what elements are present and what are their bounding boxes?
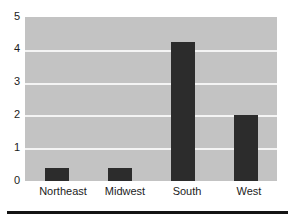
bar-northeast[interactable]	[45, 168, 69, 181]
bar-chart-figure: 5 4 3 2 1 0 Northeast Midwest South West	[0, 0, 295, 224]
y-tick-label-4: 4	[4, 43, 20, 54]
x-tick-label-midwest: Midwest	[105, 184, 145, 198]
y-tick-label-0: 0	[4, 175, 20, 186]
bar-west[interactable]	[234, 115, 258, 181]
x-tick-label-northeast: Northeast	[39, 184, 87, 198]
x-tick-label-south: South	[173, 184, 202, 198]
plot-area	[25, 17, 277, 181]
bar-south[interactable]	[171, 42, 195, 181]
y-tick-label-5: 5	[4, 11, 20, 22]
y-tick-label-3: 3	[4, 76, 20, 87]
y-tick-label-1: 1	[4, 142, 20, 153]
x-axis-tick-labels: Northeast Midwest South West	[25, 184, 277, 200]
bottom-divider	[7, 211, 288, 214]
bar-midwest[interactable]	[108, 168, 132, 181]
x-tick-label-west: West	[237, 184, 262, 198]
y-tick-label-2: 2	[4, 109, 20, 120]
gridline-y-4	[25, 50, 277, 52]
gridline-y-3	[25, 83, 277, 85]
